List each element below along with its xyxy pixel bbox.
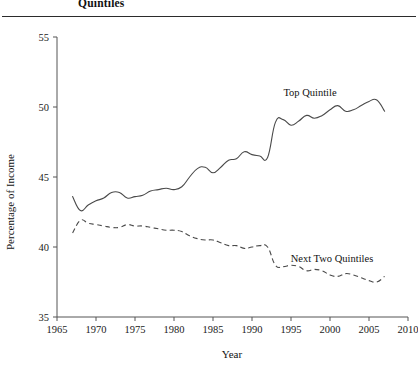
axes-group [57, 37, 408, 317]
x-tick-label: 1990 [242, 324, 263, 335]
x-axis-title: Year [222, 348, 243, 360]
x-tick-label: 1980 [164, 324, 185, 335]
y-tick-label: 45 [39, 172, 50, 183]
x-tick-label: 1965 [47, 324, 68, 335]
y-axis-ticks: 3540455055 [39, 32, 58, 323]
x-axis-ticks: 1965197019751980198519901995200020052010 [47, 317, 418, 335]
y-tick-label: 55 [39, 32, 50, 43]
chart-plot: 3540455055 19651970197519801985199019952… [0, 0, 418, 369]
y-tick-label: 40 [39, 242, 50, 253]
series-label-top-quintile: Top Quintile [283, 87, 337, 98]
x-tick-label: 1995 [281, 324, 302, 335]
series-line-next-two-quintiles [73, 220, 385, 283]
y-tick-label: 35 [39, 312, 50, 323]
x-tick-label: 2010 [398, 324, 418, 335]
chart-figure: Quintiles 3540455055 1965197019751980198… [0, 0, 418, 369]
y-tick-label: 50 [39, 102, 50, 113]
series-label-next-two-quintiles: Next Two Quintiles [291, 253, 373, 264]
x-tick-label: 1985 [203, 324, 224, 335]
x-tick-label: 2005 [359, 324, 380, 335]
x-tick-label: 1975 [125, 324, 146, 335]
x-tick-label: 1970 [86, 324, 107, 335]
series-line-top-quintile [73, 99, 385, 211]
x-tick-label: 2000 [320, 324, 341, 335]
y-axis-title: Percentage of Income [4, 154, 16, 250]
